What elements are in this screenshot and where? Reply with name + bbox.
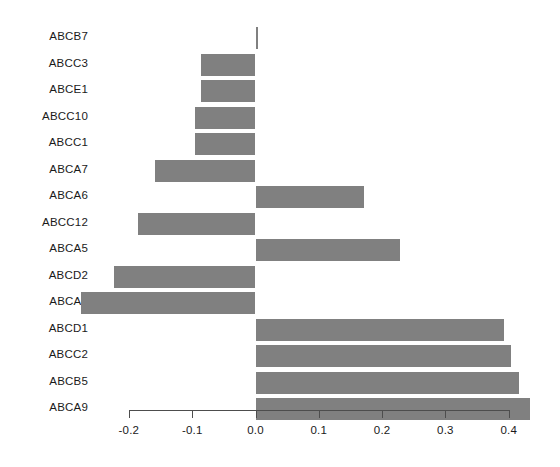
x-axis-tick-label: 0.4 bbox=[484, 424, 534, 436]
category-label-abca7: ABCA7 bbox=[0, 163, 88, 175]
bar-abcc1 bbox=[195, 133, 256, 155]
bar-abcc10 bbox=[195, 107, 256, 129]
bar-abcc2 bbox=[256, 345, 511, 367]
category-label-abcb5: ABCB5 bbox=[0, 375, 88, 387]
bar-abca7 bbox=[155, 160, 255, 182]
category-label-abcc1: ABCC1 bbox=[0, 136, 88, 148]
category-label-abcd1: ABCD1 bbox=[0, 322, 88, 334]
x-axis-tick bbox=[129, 410, 130, 418]
bar-abca6 bbox=[256, 186, 364, 208]
x-axis-tick bbox=[382, 410, 383, 418]
category-label-abca3: ABCA3 bbox=[0, 295, 88, 307]
bar-abcb7 bbox=[256, 27, 258, 49]
x-axis-tick-label: 0.0 bbox=[231, 424, 281, 436]
category-label-abcc3: ABCC3 bbox=[0, 57, 88, 69]
bar-abcc12 bbox=[138, 213, 255, 235]
category-label-abcc2: ABCC2 bbox=[0, 348, 88, 360]
bar-abcd1 bbox=[256, 319, 504, 341]
bar-abcc3 bbox=[201, 54, 255, 76]
x-axis-tick-label: 0.2 bbox=[357, 424, 407, 436]
category-label-abca6: ABCA6 bbox=[0, 189, 88, 201]
category-label-abce1: ABCE1 bbox=[0, 83, 88, 95]
x-axis-tick bbox=[256, 410, 257, 418]
bar-abca3 bbox=[81, 292, 255, 314]
bar-abcb5 bbox=[256, 372, 519, 394]
x-axis-tick bbox=[509, 410, 510, 418]
bar-abcd2 bbox=[114, 266, 255, 288]
plot-area: ABCB7ABCC3ABCE1ABCC10ABCC1ABCA7ABCA6ABCC… bbox=[0, 0, 560, 467]
category-label-abcc12: ABCC12 bbox=[0, 216, 88, 228]
x-axis-tick-label: -0.2 bbox=[104, 424, 154, 436]
x-axis-tick-label: -0.1 bbox=[167, 424, 217, 436]
category-label-abca9: ABCA9 bbox=[0, 401, 88, 413]
x-axis-tick bbox=[319, 410, 320, 418]
category-label-abcb7: ABCB7 bbox=[0, 30, 88, 42]
bar-abca9 bbox=[256, 398, 530, 420]
category-label-abcd2: ABCD2 bbox=[0, 269, 88, 281]
category-label-abca5: ABCA5 bbox=[0, 242, 88, 254]
x-axis-tick-label: 0.3 bbox=[420, 424, 470, 436]
category-label-abcc10: ABCC10 bbox=[0, 110, 88, 122]
bar-abce1 bbox=[201, 80, 255, 102]
bar-abca5 bbox=[256, 239, 401, 261]
x-axis-tick bbox=[445, 410, 446, 418]
x-axis-tick-label: 0.1 bbox=[294, 424, 344, 436]
x-axis-tick bbox=[192, 410, 193, 418]
bar-chart: ABCB7ABCC3ABCE1ABCC10ABCC1ABCA7ABCA6ABCC… bbox=[0, 0, 560, 467]
